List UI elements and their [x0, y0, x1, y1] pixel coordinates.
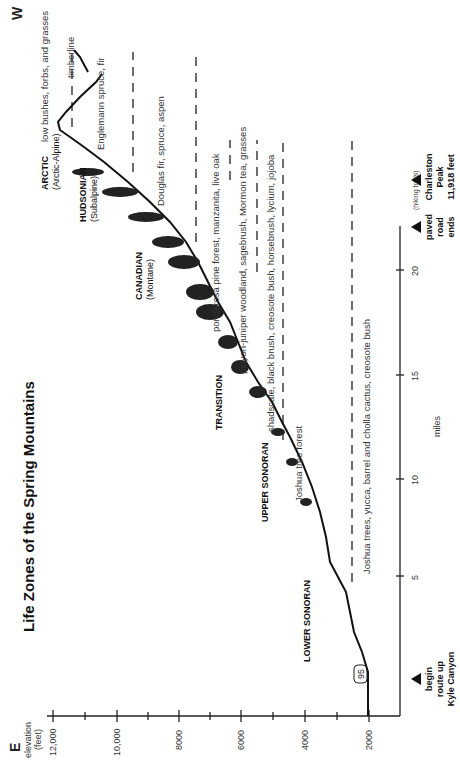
zone-hudsonian-sub: (Subalpine)	[89, 176, 99, 222]
elevation-ticks: 12,000 10,000 8000 6000 4000 2000	[48, 728, 374, 756]
zone-upper-sonoran: UPPER SONORAN	[260, 442, 270, 522]
veg-joshua-forest: Joshua tree forest	[293, 426, 304, 502]
y-tick-12000: 12,000	[48, 728, 58, 756]
x-tick-20: 20	[410, 266, 420, 276]
zone-hudsonian: HUDSONIAN	[78, 167, 88, 222]
timberline-label: timberline	[65, 37, 76, 78]
zone-canadian-sub: (Montane)	[145, 259, 155, 300]
zone-transition: TRANSITION	[214, 375, 224, 430]
y-axis-label-line1: elevation	[23, 722, 33, 758]
zone-arctic-sub: (Arctic-Alpine)	[51, 133, 61, 190]
svg-text:route up: route up	[435, 661, 445, 697]
triangle-marker-icon	[411, 673, 421, 685]
terrain-profile-far	[74, 50, 88, 72]
veg-shadscale: shadscale, black brush, creosote bush, h…	[265, 154, 276, 432]
y-tick-8000: 8000	[174, 730, 184, 750]
svg-text:11,918 feet: 11,918 feet	[446, 154, 456, 200]
miles-axis	[396, 226, 404, 716]
x-tick-15: 15	[410, 371, 420, 381]
highway-95-shield-icon: 95	[354, 665, 367, 683]
life-zones-diagram: Life Zones of the Spring Mountains E W e…	[0, 0, 460, 762]
svg-text:road: road	[435, 217, 445, 237]
svg-text:ends: ends	[446, 216, 456, 237]
veg-lower-sonoran: Joshua trees, yucca, barrel and cholla c…	[361, 319, 372, 574]
marker-paved-road-ends: paved road ends	[411, 214, 456, 240]
y-tick-2000: 2000	[364, 730, 374, 750]
x-axis-label: miles	[432, 415, 442, 437]
svg-text:paved: paved	[424, 214, 434, 240]
y-tick-6000: 6000	[236, 730, 246, 750]
triangle-marker-icon	[411, 221, 421, 233]
vegetation-illustration	[72, 168, 312, 506]
svg-text:Charleston: Charleston	[424, 153, 434, 200]
diagram-canvas: Life Zones of the Spring Mountains E W e…	[0, 0, 460, 762]
veg-douglas-fir: Douglas fir, spruce, aspen	[155, 96, 166, 206]
zone-canadian: CANADIAN	[134, 252, 144, 300]
svg-text:Peak: Peak	[435, 166, 445, 188]
miles-ticks: 5 10 15 20 miles	[410, 266, 442, 580]
svg-text:Kyle Canyon: Kyle Canyon	[446, 652, 456, 707]
elevation-axis	[47, 710, 400, 722]
veg-ponderosa: ponderosa pine forest, manzanita, live o…	[210, 153, 221, 332]
y-axis-label-line2: (feet)	[33, 729, 43, 750]
diagram-title: Life Zones of the Spring Mountains	[20, 381, 37, 632]
y-tick-4000: 4000	[300, 730, 310, 750]
y-tick-10000: 10,000	[112, 728, 122, 756]
x-tick-5: 5	[410, 575, 420, 580]
direction-west: W	[9, 6, 25, 20]
zone-lower-sonoran: LOWER SONORAN	[302, 580, 312, 662]
direction-east: E	[7, 743, 23, 752]
x-tick-10: 10	[410, 475, 420, 485]
veg-pinyon-juniper: pinyon-juniper woodland, sagebrush, Morm…	[237, 127, 248, 374]
veg-arctic: low bushes, forbs, and grasses	[39, 11, 50, 142]
veg-englemann: Englemann spruce, fir	[95, 58, 106, 150]
svg-text:begin: begin	[424, 667, 434, 691]
marker-begin: begin route up Kyle Canyon	[411, 652, 456, 707]
zone-arctic: ARCTIC	[40, 156, 50, 190]
svg-text:95: 95	[356, 669, 366, 679]
